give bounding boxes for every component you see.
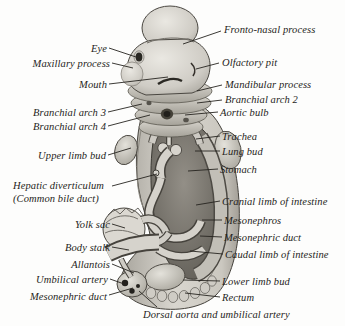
- label-trachea: Trachea: [222, 130, 257, 143]
- label-aortic-bulb: Aortic bulb: [220, 106, 269, 119]
- label-stomach: Stomach: [220, 163, 257, 176]
- label-yolk-sac: Yolk sac: [75, 218, 110, 231]
- label-branchial-arch-2: Branchial arch 2: [225, 93, 298, 106]
- label-mandibular-process: Mandibular process: [225, 78, 311, 91]
- label-branchial-arch-4: Branchial arch 4: [33, 120, 106, 133]
- eye-spot: [136, 52, 143, 61]
- label-body-stalk: Body stalk: [65, 241, 110, 254]
- label-hepatic-diverticulum: Hepatic diverticulum (Common bile duct): [13, 179, 104, 205]
- label-mesonephric-duct-left: Mesonephric duct: [30, 290, 107, 303]
- label-caudal-limb-of-intestine: Caudal limb of intestine: [225, 248, 329, 261]
- label-mouth: Mouth: [79, 78, 107, 91]
- label-cranial-limb-of-intestine: Cranial limb of intestine: [222, 195, 327, 208]
- label-hepatic-diverticulum-line2: (Common bile duct): [13, 192, 104, 205]
- aortic-bulb-pit: [161, 109, 173, 120]
- label-umbilical-artery: Umbilical artery: [36, 273, 108, 286]
- label-lung-bud: Lung bud: [222, 145, 263, 158]
- caption-dorsal-aorta-umbilical-artery: Dorsal aorta and umbilical artery: [143, 308, 290, 321]
- label-rectum: Rectum: [222, 291, 254, 304]
- label-fronto-nasal-process: Fronto-nasal process: [224, 23, 315, 36]
- label-branchial-arch-3: Branchial arch 3: [33, 106, 106, 119]
- label-eye: Eye: [91, 42, 107, 55]
- label-lower-limb-bud: Lower limb bud: [222, 275, 290, 288]
- embryo-diagram: Eye Maxillary process Mouth Branchial ar…: [0, 0, 345, 326]
- label-mesonephros: Mesonephros: [224, 214, 281, 227]
- label-upper-limb-bud: Upper limb bud: [38, 149, 106, 162]
- umbilical-artery-spot: [122, 280, 128, 286]
- label-mesonephric-duct-right: Mesonephric duct: [224, 231, 301, 244]
- label-hepatic-diverticulum-line1: Hepatic diverticulum: [13, 179, 104, 192]
- label-olfactory-pit: Olfactory pit: [222, 56, 277, 69]
- label-allantois: Allantois: [71, 258, 110, 271]
- label-maxillary-process: Maxillary process: [33, 57, 110, 70]
